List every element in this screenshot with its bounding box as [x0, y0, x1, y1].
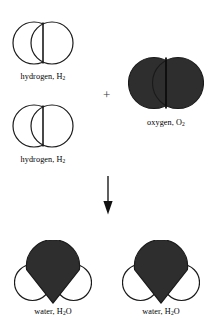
label-hydrogen-1: hydrogen, H2: [21, 73, 66, 82]
molecule-hydrogen-1: hydrogen, H2: [12, 17, 74, 82]
oxygen-molecule-icon: [128, 52, 204, 114]
label-water-1-prefix: water, H: [34, 307, 63, 316]
water-molecule-icon: [14, 240, 92, 304]
label-water-1-suffix: O: [66, 307, 72, 316]
label-water-2-prefix: water, H: [142, 307, 171, 316]
label-hydrogen-2: hydrogen, H2: [21, 156, 66, 165]
hydrogen-molecule-icon: [12, 100, 74, 152]
label-hydrogen-1-subscript: 2: [63, 75, 66, 81]
reaction-diagram: hydrogen, H2 hydrogen, H2 + oxygen, O2: [0, 0, 214, 329]
molecule-water-1: water, H2O: [14, 240, 92, 317]
label-oxygen-1-subscript: 2: [182, 121, 185, 127]
molecule-water-2: water, H2O: [122, 240, 200, 317]
water-molecule-icon: [122, 240, 200, 304]
hydrogen-molecule-icon: [12, 17, 74, 69]
molecule-hydrogen-2: hydrogen, H2: [12, 100, 74, 165]
label-water-2-suffix: O: [174, 307, 180, 316]
label-water-1: water, H2O: [34, 308, 72, 317]
label-hydrogen-2-text: hydrogen, H: [21, 155, 63, 164]
label-oxygen-1-text: oxygen, O: [147, 118, 182, 127]
label-water-2: water, H2O: [142, 308, 180, 317]
label-oxygen-1: oxygen, O2: [147, 119, 185, 128]
label-hydrogen-2-subscript: 2: [63, 158, 66, 164]
plus-operator-icon: +: [103, 88, 110, 101]
molecule-oxygen-1: oxygen, O2: [128, 52, 204, 128]
reaction-arrow-icon: [98, 176, 118, 220]
label-hydrogen-1-text: hydrogen, H: [21, 72, 63, 81]
